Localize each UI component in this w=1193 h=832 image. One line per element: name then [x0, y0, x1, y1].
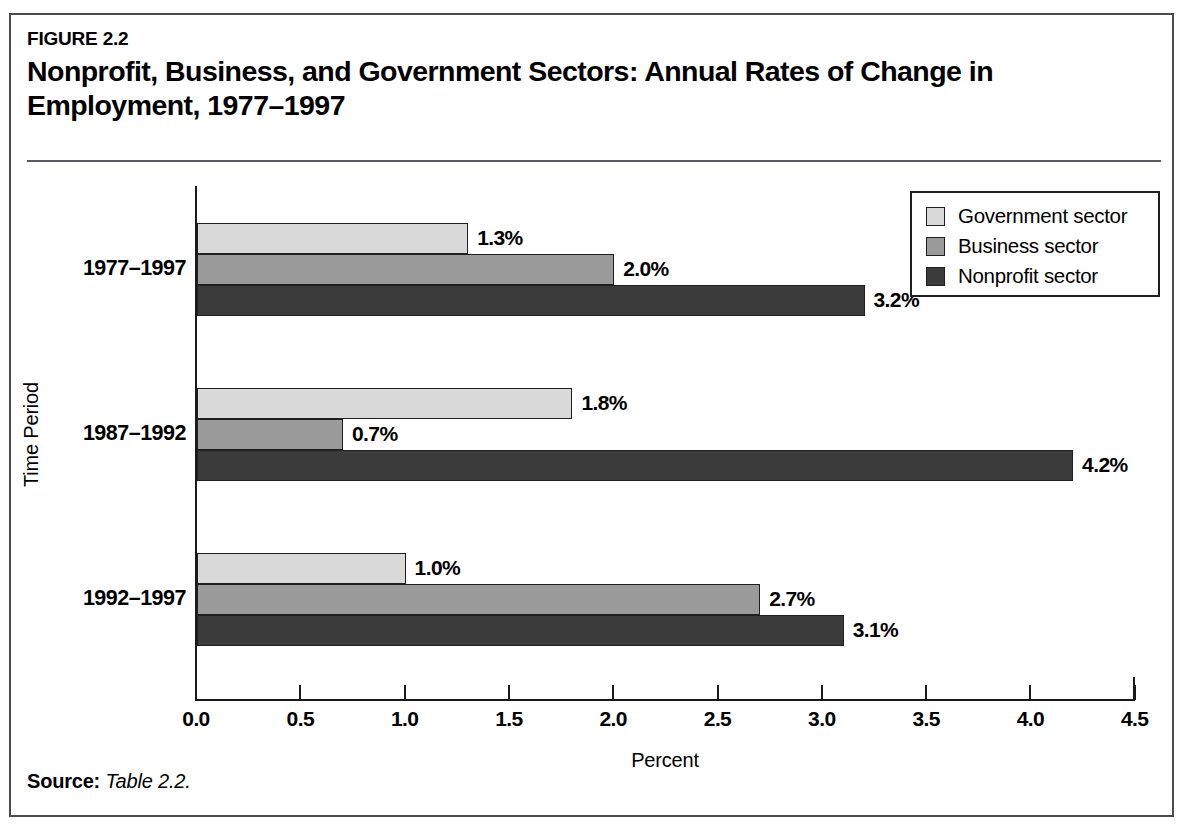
bar-government: [197, 388, 572, 419]
x-axis-tick-label: 3.0: [787, 707, 857, 731]
bar-business: [197, 419, 343, 450]
source-text: Table 2.2.: [105, 770, 190, 792]
x-axis-tick: [717, 685, 719, 700]
x-axis-tick: [1134, 685, 1136, 700]
bar-business: [197, 254, 614, 285]
bar-value-label: 0.7%: [352, 422, 397, 446]
legend-label: Nonprofit sector: [958, 266, 1098, 287]
y-axis-group-label: 1992–1997: [41, 586, 186, 611]
legend-swatch-icon: [926, 207, 945, 226]
x-axis-tick: [1029, 685, 1031, 700]
legend-label: Business sector: [958, 236, 1098, 257]
x-axis-title: Percent: [195, 749, 1135, 772]
x-axis-tick: [612, 685, 614, 700]
bar-value-label: 3.1%: [853, 618, 898, 642]
x-axis-tick: [925, 685, 927, 700]
figure-title: Nonprofit, Business, and Government Sect…: [27, 54, 1137, 122]
bar-value-label: 2.7%: [769, 587, 814, 611]
legend-item-business[interactable]: Business sector: [926, 231, 1158, 261]
x-axis-tick: [508, 685, 510, 700]
x-axis-tick-label: 4.5: [1100, 707, 1170, 731]
bar-government: [197, 223, 468, 254]
y-axis-title: Time Period: [20, 275, 43, 595]
x-axis-line: [195, 699, 1135, 701]
x-axis-tick-label: 4.0: [995, 707, 1065, 731]
x-axis-tick-label: 0.0: [161, 707, 231, 731]
bar-value-label: 1.0%: [415, 556, 460, 580]
figure-header: FIGURE 2.2 Nonprofit, Business, and Gove…: [27, 27, 1152, 122]
chart-plot-area: Time Period 0.00.51.01.52.02.53.03.54.04…: [11, 173, 1172, 743]
x-axis-tick: [404, 685, 406, 700]
x-axis-tick-label: 3.5: [891, 707, 961, 731]
legend-label: Government sector: [958, 206, 1127, 227]
bar-business: [197, 584, 760, 615]
legend-swatch-icon: [926, 237, 945, 256]
legend-swatch-icon: [926, 267, 945, 286]
figure-frame: FIGURE 2.2 Nonprofit, Business, and Gove…: [9, 13, 1174, 817]
source-label: Source:: [27, 770, 100, 792]
x-axis-tick-label: 2.0: [578, 707, 648, 731]
figure-number: FIGURE 2.2: [27, 27, 1152, 51]
x-axis-tick-label: 0.5: [265, 707, 335, 731]
bar-nonprofit: [197, 615, 844, 646]
x-axis-tick: [299, 685, 301, 700]
x-axis-tick: [195, 685, 197, 700]
x-axis-tick-label: 1.5: [474, 707, 544, 731]
x-axis-tick-label: 1.0: [370, 707, 440, 731]
legend-item-nonprofit[interactable]: Nonprofit sector: [926, 261, 1158, 291]
chart-legend: Government sectorBusiness sectorNonprofi…: [910, 191, 1160, 297]
y-axis-group-label: 1987–1992: [41, 421, 186, 446]
bar-nonprofit: [197, 285, 865, 316]
bar-value-label: 1.3%: [477, 226, 522, 250]
bar-value-label: 4.2%: [1082, 453, 1127, 477]
y-axis-group-label: 1977–1997: [41, 256, 186, 281]
legend-item-government[interactable]: Government sector: [926, 201, 1158, 231]
bar-government: [197, 553, 406, 584]
bar-value-label: 2.0%: [623, 257, 668, 281]
x-axis-tick-label: 2.5: [683, 707, 753, 731]
bar-value-label: 1.8%: [581, 391, 626, 415]
bar-nonprofit: [197, 450, 1073, 481]
title-divider: [27, 160, 1161, 162]
x-axis-tick: [821, 685, 823, 700]
source-note: Source: Table 2.2.: [27, 770, 191, 793]
